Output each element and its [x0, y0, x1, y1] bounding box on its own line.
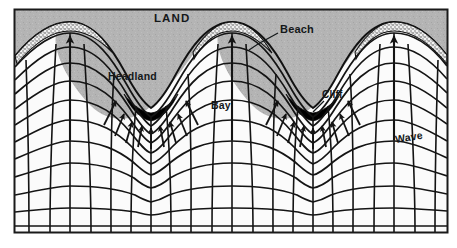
- label-headland: Headland: [108, 70, 157, 82]
- label-land: LAND: [154, 12, 190, 24]
- figure-content: [15, 10, 447, 232]
- label-bay: Bay: [211, 99, 231, 111]
- label-beach: Beach: [280, 23, 314, 35]
- label-cliff: Cliff: [322, 89, 342, 100]
- diagram-canvas: LAND Beach Headland Bay Cliff Wave: [0, 0, 457, 248]
- coastal-wave-refraction-diagram: [0, 0, 457, 248]
